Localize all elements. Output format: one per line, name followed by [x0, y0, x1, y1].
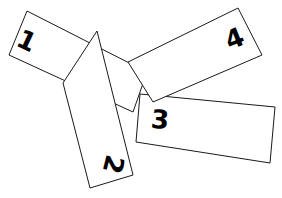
drawing-canvas: 1 2 3 4	[0, 0, 282, 198]
shapes-canvas: 1 2 3 4	[0, 0, 282, 198]
rectangle-3-label: 3	[150, 104, 171, 135]
